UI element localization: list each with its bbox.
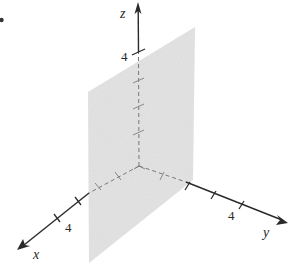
x-axis-arrow-icon xyxy=(17,239,30,250)
y-axis-label: y xyxy=(261,225,270,240)
z-axis-tick-label-4: 4 xyxy=(121,49,128,64)
y-axis-arrow-icon xyxy=(276,215,288,225)
z-axis-label: z xyxy=(119,6,126,21)
x-axis-label: x xyxy=(32,247,40,262)
figure-3d-plane: z 4 4 x 4 y xyxy=(0,0,290,268)
x-axis-tick-label-4: 4 xyxy=(65,220,72,235)
corner-mark-dot xyxy=(0,18,4,22)
shaded-plane xyxy=(88,27,195,263)
y-axis-tick-label-4: 4 xyxy=(228,208,235,223)
diagram-canvas: z 4 4 x 4 y xyxy=(0,0,290,268)
